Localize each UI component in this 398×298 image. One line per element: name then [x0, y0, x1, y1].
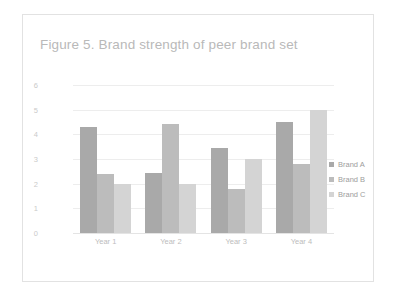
bar[interactable]: [145, 173, 162, 233]
bar[interactable]: [310, 110, 327, 233]
bar-group: [80, 85, 131, 233]
legend-item-label: Brand C: [338, 190, 366, 199]
x-axis-tick-label: Year 3: [204, 237, 269, 246]
y-axis-tick-label: 0: [16, 229, 38, 238]
plot-area: 6543210 Year 1Year 2Year 3Year 4: [48, 85, 316, 233]
bar[interactable]: [276, 122, 293, 233]
legend-item[interactable]: Brand B: [329, 173, 366, 186]
y-axis-tick-label: 5: [16, 106, 38, 115]
legend-swatch-icon: [329, 192, 334, 197]
y-axis-tick-label: 3: [16, 155, 38, 164]
legend-item[interactable]: Brand A: [329, 158, 366, 171]
legend-item-label: Brand A: [338, 160, 365, 169]
bar-group: [211, 85, 262, 233]
y-axis-tick-label: 1: [16, 204, 38, 213]
bar-group: [145, 85, 196, 233]
bar[interactable]: [211, 148, 228, 233]
bar[interactable]: [162, 124, 179, 233]
x-axis-tick-label: Year 2: [138, 237, 203, 246]
bar[interactable]: [80, 127, 97, 233]
bar[interactable]: [97, 174, 114, 233]
bar[interactable]: [245, 159, 262, 233]
axis-baseline: [73, 233, 334, 234]
chart-legend: Brand ABrand BBrand C: [329, 158, 366, 203]
x-axis-tick-label: Year 4: [269, 237, 334, 246]
chart-title: Figure 5. Brand strength of peer brand s…: [40, 37, 298, 52]
legend-item-label: Brand B: [338, 175, 365, 184]
y-axis-tick-label: 6: [16, 81, 38, 90]
legend-swatch-icon: [329, 177, 334, 182]
y-axis-tick-label: 2: [16, 180, 38, 189]
bar[interactable]: [114, 184, 131, 233]
bar[interactable]: [179, 184, 196, 233]
bar[interactable]: [293, 164, 310, 233]
x-axis-tick-label: Year 1: [73, 237, 138, 246]
legend-swatch-icon: [329, 162, 334, 167]
y-axis-tick-label: 4: [16, 130, 38, 139]
legend-item[interactable]: Brand C: [329, 188, 366, 201]
bar[interactable]: [228, 189, 245, 233]
figure-frame: Figure 5. Brand strength of peer brand s…: [22, 14, 374, 282]
bar-group: [276, 85, 327, 233]
